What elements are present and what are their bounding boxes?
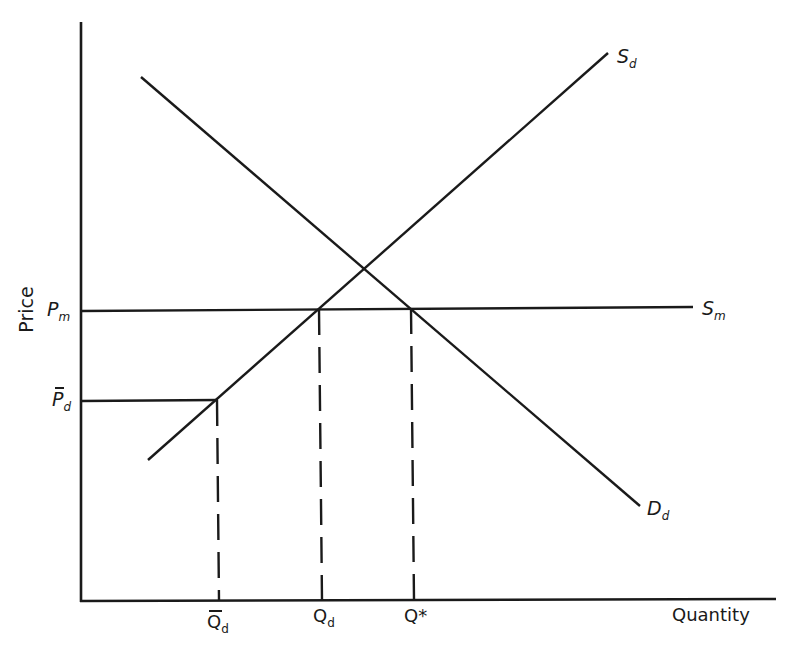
sm-label: Sm: [702, 299, 726, 322]
qstar-label: Q*: [404, 607, 427, 625]
dd-label: Dd: [647, 499, 669, 522]
qd-label-main: Q: [313, 605, 327, 626]
sm-curve: [81, 307, 693, 311]
qd-bar-dashed-line: [217, 400, 219, 600]
pm-label-main: P: [47, 298, 58, 320]
qd-label-sub: d: [327, 616, 335, 630]
x-axis: [80, 599, 776, 601]
pd-label-sub: d: [63, 400, 71, 414]
sm-label-main: S: [702, 297, 714, 319]
sd-label-main: S: [617, 45, 629, 67]
y-axis-title: Price: [17, 280, 36, 340]
pd-bar-line: [81, 400, 218, 401]
pd-label: Pd: [52, 390, 71, 413]
pm-label-sub: m: [58, 310, 70, 324]
x-axis-title: Quantity: [672, 606, 750, 624]
qd-bar-label-sub: d: [221, 622, 229, 636]
qd-label: Qd: [313, 607, 335, 629]
sd-label-sub: d: [629, 57, 637, 71]
sm-label-sub: m: [714, 309, 726, 323]
qd-bar-label-main: Q: [207, 611, 221, 632]
qstar-dashed-line: [411, 308, 414, 600]
sd-curve: [148, 53, 608, 460]
dd-label-main: D: [647, 497, 662, 519]
dd-label-sub: d: [662, 509, 670, 523]
qd-dashed-line: [319, 309, 322, 600]
diagram-canvas: [0, 0, 787, 645]
pd-label-main: P: [52, 388, 63, 410]
dd-curve: [141, 77, 640, 506]
sd-label: Sd: [617, 47, 637, 70]
pm-label: Pm: [47, 300, 70, 323]
qd-bar-label: Qd: [207, 613, 229, 635]
